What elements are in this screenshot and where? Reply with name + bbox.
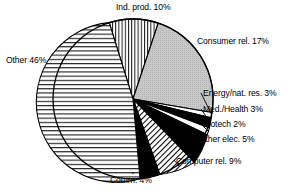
pie-label-energy-nat-res: Energy/nat. res. 3%	[203, 88, 277, 98]
pie-label-computer-rel: Computer rel. 9%	[176, 156, 241, 166]
pie-label-med-health: Med./Health 3%	[203, 104, 263, 114]
pie-label-comm: Comm. 4%	[110, 175, 152, 185]
pie-label-other-elec: Other elec. 5%	[199, 134, 254, 144]
pie-label-other: Other 46%	[6, 55, 46, 65]
pie-label-consumer-rel: Consumer rel. 17%	[197, 36, 269, 46]
pie-label-ind-prod: Ind. prod. 10%	[116, 2, 171, 12]
pie-label-biotech: Biotech 2%	[203, 119, 245, 129]
pie-chart-figure: Ind. prod. 10% Consumer rel. 17% Energy/…	[0, 0, 306, 191]
